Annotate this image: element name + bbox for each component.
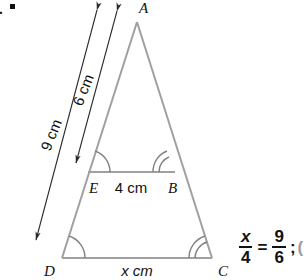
- fraction-right-denominator: 6: [272, 246, 285, 266]
- angle-arc-E: [95, 151, 110, 172]
- side-AD: [62, 22, 137, 258]
- list-marker: .: [0, 1, 3, 17]
- vertex-label-A: A: [138, 0, 149, 16]
- vertex-label-E: E: [88, 180, 98, 196]
- equation-cutoff-text: (: [298, 239, 303, 256]
- list-bullet-icon: [10, 4, 15, 9]
- dimension-label-x-cm: x cm: [120, 262, 153, 279]
- fraction-left: x 4: [239, 228, 252, 266]
- angle-arc-C-inner: [195, 242, 207, 258]
- vertex-label-D: D: [43, 263, 55, 279]
- fraction-right-numerator: 9: [272, 228, 285, 246]
- angle-arc-C-outer: [189, 236, 205, 258]
- figure-page: .: [0, 0, 306, 280]
- vertex-label-C: C: [218, 263, 229, 279]
- fraction-right: 9 6: [272, 228, 285, 266]
- fraction-left-denominator: 4: [239, 246, 252, 266]
- dimension-label-4cm: 4 cm: [115, 179, 148, 196]
- angle-arc-B-outer: [153, 151, 167, 172]
- vertex-label-B: B: [168, 180, 177, 196]
- proportion-equation: x 4 = 9 6 ; (: [236, 228, 303, 266]
- equation-terminator: ;: [290, 239, 296, 256]
- angle-arc-B-inner: [159, 157, 169, 172]
- side-AC: [137, 22, 212, 258]
- angle-arc-D: [69, 236, 85, 258]
- equals-sign: =: [257, 239, 267, 256]
- fraction-left-numerator: x: [239, 228, 252, 246]
